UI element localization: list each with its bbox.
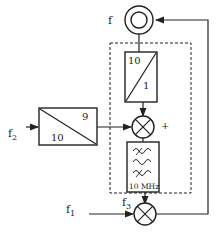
oscillator-output-label: f bbox=[108, 14, 113, 27]
plus-sign-label: + bbox=[161, 120, 169, 131]
mixer-2-icon bbox=[134, 203, 156, 225]
divider-left-bottom: 10 bbox=[51, 132, 64, 143]
mixer-f3-label: f3 bbox=[122, 196, 131, 211]
feedback-path bbox=[156, 20, 208, 214]
divider-top-numerator: 10 bbox=[128, 55, 141, 66]
mixer-1-icon bbox=[132, 116, 154, 138]
divider-left-top: 9 bbox=[82, 111, 88, 122]
filter-frequency-label: 10 MHz bbox=[129, 182, 159, 191]
diagram-canvas: f 10 1 + 9 10 f2 10 MHz bbox=[0, 0, 218, 232]
input-f1-label: f1 bbox=[66, 203, 75, 218]
oscillator-icon bbox=[125, 6, 153, 34]
divider-top-denominator: 1 bbox=[143, 80, 149, 91]
input-f2-label: f2 bbox=[8, 127, 17, 142]
